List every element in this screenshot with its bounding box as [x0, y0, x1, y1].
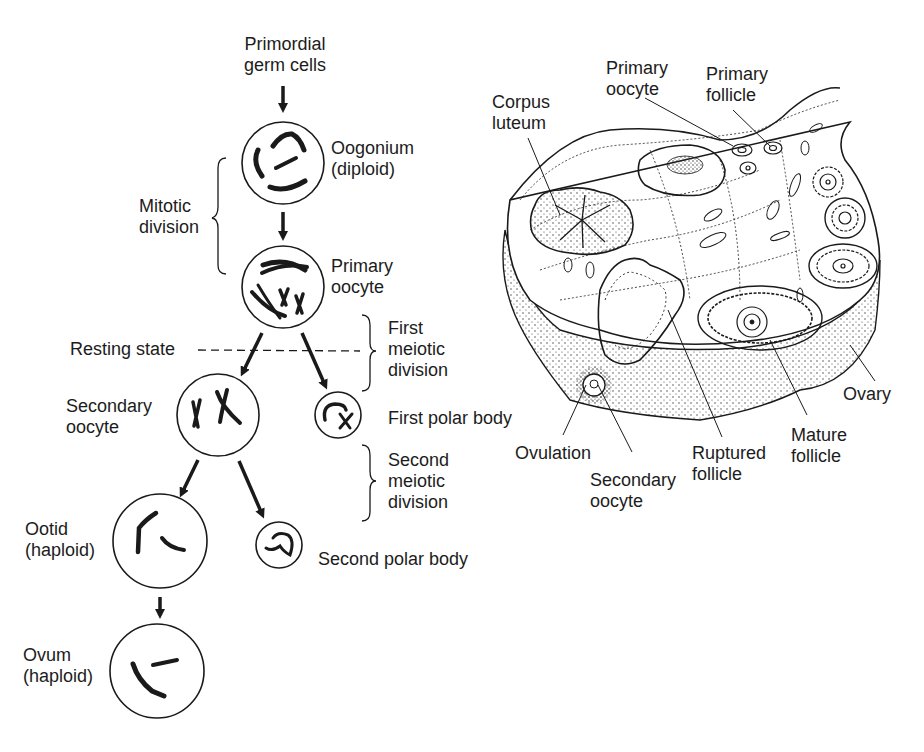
label-corpus-luteum: Corpus luteum — [492, 92, 550, 134]
label-first-meiotic-division: First meiotic division — [388, 318, 448, 381]
arrow-primary-to-secondary — [243, 333, 262, 372]
label-line: luteum — [492, 113, 550, 134]
label-line: Ootid — [25, 519, 95, 540]
label-line: Primary — [706, 64, 768, 85]
secondary-oocyte-cell — [177, 374, 259, 456]
label-line: oocyte — [331, 277, 393, 298]
label-line: follicle — [706, 85, 768, 106]
label-ovary: Ovary — [843, 384, 891, 405]
label-secondary-oocyte-right: Secondary oocyte — [590, 470, 676, 512]
arrow-secondary-to-second-polar — [239, 461, 262, 514]
label-line: Mitotic — [139, 196, 199, 217]
label-line: Primordial — [244, 34, 326, 55]
label-oogonium: Oogonium (diploid) — [331, 138, 414, 180]
label-line: division — [388, 492, 449, 513]
label-line: follicle — [692, 464, 766, 485]
label-ootid: Ootid (haploid) — [25, 519, 95, 561]
second-meiotic-brace — [362, 445, 376, 521]
primary-oocyte-cell — [242, 246, 324, 328]
label-ovulation: Ovulation — [515, 443, 591, 464]
label-line: Primary — [331, 256, 393, 277]
label-line: oocyte — [590, 491, 676, 512]
first-polar-body-cell — [315, 392, 361, 438]
oogonium-cell — [242, 122, 324, 204]
label-line: oocyte — [66, 417, 152, 438]
label-primordial: Primordial germ cells — [244, 34, 326, 76]
label-first-polar-body: First polar body — [388, 408, 512, 429]
label-primary-oocyte-right: Primary oocyte — [606, 58, 668, 100]
label-resting-state: Resting state — [70, 339, 175, 360]
label-ovum: Ovum (haploid) — [23, 645, 93, 687]
label-line: Corpus — [492, 92, 550, 113]
first-meiotic-brace — [362, 315, 376, 391]
label-mitotic-division: Mitotic division — [139, 196, 199, 238]
label-line: division — [139, 217, 199, 238]
label-line: Mature — [791, 425, 847, 446]
label-line: Primary — [606, 58, 668, 79]
label-second-polar-body: Second polar body — [318, 549, 468, 570]
label-line: Ovum — [23, 645, 93, 666]
ootid-cell — [113, 494, 207, 588]
label-primary-oocyte-left: Primary oocyte — [331, 256, 393, 298]
label-primary-follicle: Primary follicle — [706, 64, 768, 106]
second-polar-body-cell — [256, 522, 302, 568]
label-line: Ruptured — [692, 443, 766, 464]
label-line: First — [388, 318, 448, 339]
label-ruptured-follicle: Ruptured follicle — [692, 443, 766, 485]
label-line: division — [388, 360, 448, 381]
label-line: follicle — [791, 446, 847, 467]
label-line: oocyte — [606, 79, 668, 100]
ovulating-oocyte — [576, 367, 612, 403]
label-line: Oogonium — [331, 138, 414, 159]
label-line: Secondary — [590, 470, 676, 491]
resting-state-line — [198, 350, 360, 351]
label-line: (haploid) — [23, 666, 93, 687]
diagram-canvas — [0, 0, 924, 752]
corpus-luteum — [531, 188, 634, 254]
arrow-primary-to-first-polar — [302, 333, 325, 385]
arrow-secondary-to-ootid — [182, 460, 198, 493]
label-line: meiotic — [388, 339, 448, 360]
label-line: meiotic — [388, 471, 449, 492]
label-line: (haploid) — [25, 540, 95, 561]
label-line: Second — [388, 450, 449, 471]
label-secondary-oocyte-left: Secondary oocyte — [66, 396, 152, 438]
label-line: (diploid) — [331, 159, 414, 180]
label-line: germ cells — [244, 55, 326, 76]
label-second-meiotic-division: Second meiotic division — [388, 450, 449, 513]
label-mature-follicle: Mature follicle — [791, 425, 847, 467]
label-line: Secondary — [66, 396, 152, 417]
mitotic-brace — [212, 158, 226, 274]
ovary-illustration — [503, 88, 880, 452]
ovum-cell — [110, 624, 204, 718]
